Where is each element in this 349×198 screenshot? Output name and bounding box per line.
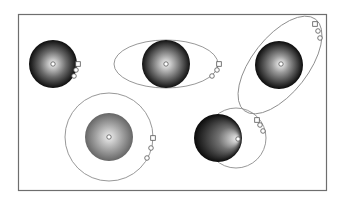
gradient-circle-handle-icon[interactable] [74,68,79,73]
gradient-square-handle-icon[interactable] [76,62,81,67]
gradient-circle-handle-icon[interactable] [72,74,77,79]
gradient-focus-handle-icon[interactable] [236,137,240,141]
gradient-focus-handle-icon[interactable] [107,135,111,139]
gradient-square-handle-icon[interactable] [217,62,222,67]
gradient-sphere[interactable] [194,114,242,162]
gradient-focus-handle-icon[interactable] [51,62,55,66]
gradient-circle-handle-icon[interactable] [258,123,263,128]
gradient-circle-handle-icon[interactable] [149,146,154,151]
gradient-diagram-canvas [0,0,349,198]
gradient-focus-handle-icon[interactable] [279,62,283,66]
gradient-square-handle-icon[interactable] [255,118,260,123]
gradient-circle-handle-icon[interactable] [145,156,150,161]
gradient-circle-handle-icon[interactable] [316,29,321,34]
gradient-focus-handle-icon[interactable] [164,62,168,66]
gradient-circle-handle-icon[interactable] [210,74,215,79]
gradient-square-handle-icon[interactable] [313,22,318,27]
gradient-circle-handle-icon[interactable] [215,68,220,73]
gradient-circle-handle-icon[interactable] [318,36,323,41]
gradient-circle-handle-icon[interactable] [261,129,266,134]
gradient-square-handle-icon[interactable] [151,136,156,141]
